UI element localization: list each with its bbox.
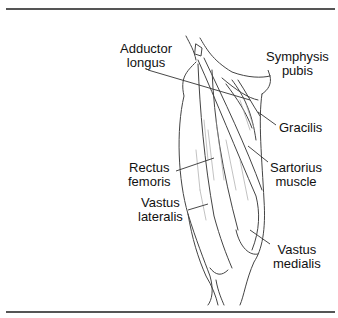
label-line: lateralis [138, 210, 183, 224]
label-rectus-femoris: Rectus femoris [128, 161, 171, 189]
label-line: medialis [273, 257, 321, 271]
leader-rectus-femoris [176, 158, 214, 171]
label-line: Adductor [120, 42, 172, 56]
label-gracilis: Gracilis [279, 121, 322, 135]
leader-vastus-medialis [250, 230, 270, 244]
medial-contour [240, 94, 265, 305]
leader-adductor-longus [148, 70, 250, 100]
label-line: Gracilis [279, 121, 322, 135]
label-line: Sartorius [270, 161, 322, 175]
label-line: longus [120, 56, 172, 70]
label-line: Symphysis [266, 50, 329, 64]
label-adductor-longus: Adductor longus [120, 42, 172, 70]
label-vastus-lateralis: Vastus lateralis [138, 196, 183, 224]
label-line: Rectus [128, 161, 171, 175]
lateral-contour [179, 62, 218, 305]
label-line: muscle [270, 175, 322, 189]
label-line: femoris [128, 175, 171, 189]
label-line: pubis [266, 64, 329, 78]
label-line: Vastus [138, 196, 183, 210]
label-symphysis-pubis: Symphysis pubis [266, 50, 329, 78]
label-sartorius-muscle: Sartorius muscle [270, 161, 322, 189]
label-vastus-medialis: Vastus medialis [273, 243, 321, 271]
leader-vastus-lateralis [188, 204, 208, 210]
leader-sartorius [248, 146, 268, 162]
label-line: Vastus [273, 243, 321, 257]
